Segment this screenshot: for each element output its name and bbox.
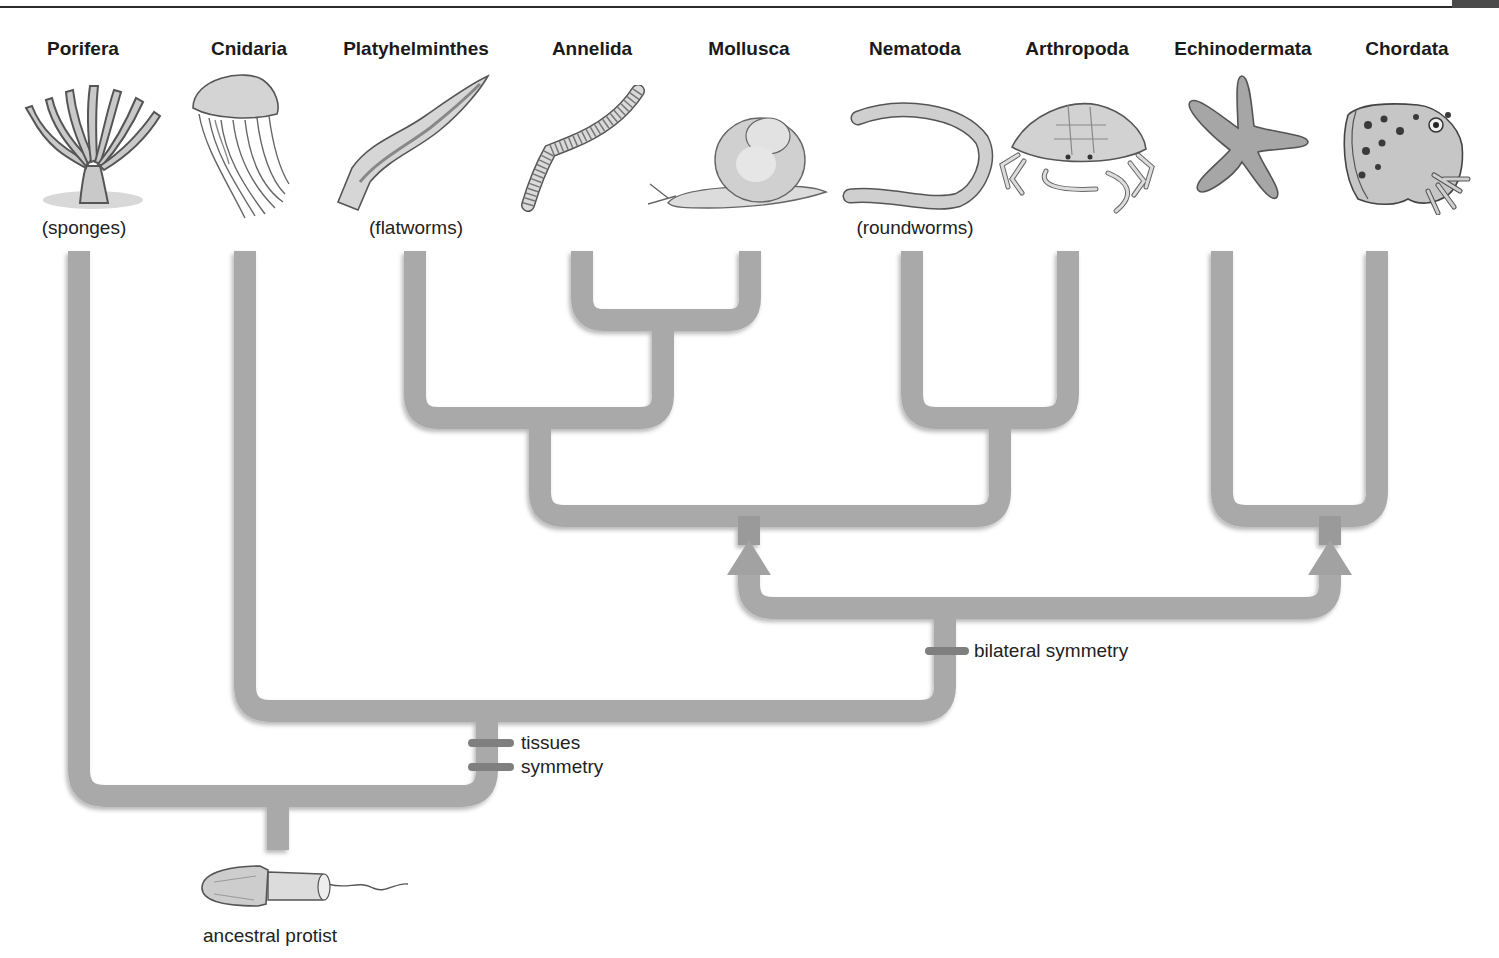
- branch-protostomia: [540, 418, 1000, 516]
- branch-lophotrochozoa: [415, 251, 663, 418]
- trait-label-symmetry: symmetry: [521, 756, 603, 778]
- trait-label-tissues: tissues: [521, 732, 580, 754]
- trait-label-bilateral: bilateral symmetry: [974, 640, 1128, 662]
- branch-ecdysozoa: [912, 251, 1068, 418]
- arrowhead-protostomia: [727, 540, 771, 575]
- branch-deuterostomia: [1222, 251, 1377, 516]
- root-label: ancestral protist: [203, 925, 337, 947]
- phylogenetic-tree: [0, 0, 1499, 958]
- branch-annelida-mollusca: [582, 251, 750, 320]
- protist-icon: [198, 862, 413, 912]
- branch-bilateria: [749, 560, 1330, 608]
- arrowhead-deuterostomia: [1308, 540, 1352, 575]
